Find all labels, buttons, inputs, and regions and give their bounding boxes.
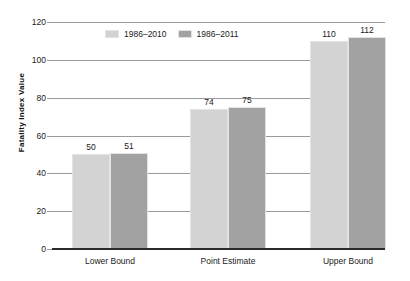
y-axis-tick-label: 0 bbox=[8, 244, 46, 254]
y-axis-tick-label: 120 bbox=[8, 17, 46, 27]
y-axis-tick-mark bbox=[47, 136, 52, 137]
bar-value-label: 50 bbox=[72, 142, 110, 152]
bar-group: 110112 bbox=[310, 22, 386, 249]
y-axis-tick-mark bbox=[47, 211, 52, 212]
bar-value-label: 112 bbox=[348, 25, 386, 35]
bar-chart: Fatality Index Value 50517475110112 0204… bbox=[0, 0, 410, 281]
y-axis-title: Fatality Index Value bbox=[17, 48, 26, 178]
bar-group: 5051 bbox=[72, 22, 148, 249]
bar[interactable] bbox=[110, 153, 148, 249]
x-axis-tick-label: Lower Bound bbox=[50, 256, 170, 266]
legend-item[interactable]: 1986–2011 bbox=[178, 29, 239, 39]
bar-value-label: 110 bbox=[310, 29, 348, 39]
bar-value-label: 74 bbox=[190, 97, 228, 107]
y-axis-tick-mark bbox=[47, 173, 52, 174]
x-axis-tick-label: Upper Bound bbox=[288, 256, 408, 266]
bar[interactable] bbox=[72, 154, 110, 249]
bar[interactable] bbox=[310, 41, 348, 249]
y-axis-tick-label: 20 bbox=[8, 206, 46, 216]
bar[interactable] bbox=[228, 107, 266, 249]
y-axis-tick-mark bbox=[47, 22, 52, 23]
legend-swatch bbox=[178, 30, 192, 38]
y-axis-tick-label: 40 bbox=[8, 168, 46, 178]
legend-label: 1986–2011 bbox=[197, 29, 239, 39]
y-axis-tick-mark bbox=[47, 98, 52, 99]
legend-item[interactable]: 1986–2010 bbox=[105, 29, 167, 39]
y-axis-tick-mark bbox=[47, 60, 52, 61]
x-axis-baseline bbox=[52, 248, 385, 250]
bar-group: 7475 bbox=[190, 22, 266, 249]
bar[interactable] bbox=[190, 109, 228, 249]
bar-value-label: 75 bbox=[228, 95, 266, 105]
legend-swatch bbox=[105, 30, 119, 38]
plot-area: 50517475110112 bbox=[52, 22, 385, 249]
y-axis-tick-label: 80 bbox=[8, 93, 46, 103]
y-axis-tick-label: 100 bbox=[8, 55, 46, 65]
legend-label: 1986–2010 bbox=[124, 29, 167, 39]
legend: 1986–20101986–2011 bbox=[105, 29, 238, 39]
y-axis-tick-label: 60 bbox=[8, 131, 46, 141]
bar[interactable] bbox=[348, 37, 386, 249]
bar-value-label: 51 bbox=[110, 141, 148, 151]
x-axis-tick-label: Point Estimate bbox=[168, 256, 288, 266]
